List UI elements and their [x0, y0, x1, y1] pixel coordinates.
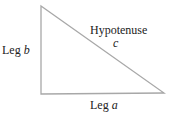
hypotenuse-label: Hypotenuse: [90, 23, 147, 37]
leg-b-label: Leg b: [2, 43, 30, 57]
leg-a-label: Leg a: [90, 98, 118, 112]
right-triangle-diagram: Leg b Hypotenuse c Leg a: [0, 0, 172, 121]
triangle-shape: [41, 6, 164, 94]
hypotenuse-variable: c: [113, 36, 119, 50]
